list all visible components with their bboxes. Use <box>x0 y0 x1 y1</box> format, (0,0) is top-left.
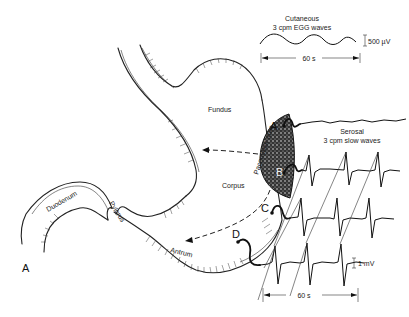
egg-scale-label: 500 µV <box>368 38 391 46</box>
serosal-title-1: Serosal <box>340 128 364 135</box>
electrode-b-label: B <box>276 166 283 178</box>
corpus-label: Corpus <box>222 182 245 190</box>
trace-a <box>300 119 406 124</box>
electrode-d: D <box>232 228 364 286</box>
cutaneous-egg-group: Cutaneous 3 cpm EGG waves 500 µV 60 s <box>260 15 391 63</box>
electrode-c-label: C <box>261 202 269 214</box>
serosal-time-label: 60 s <box>297 292 311 299</box>
propagation-arrow-lower <box>190 190 270 240</box>
stomach-emg-diagram: Cutaneous 3 cpm EGG waves 500 µV 60 s <box>0 0 409 317</box>
trace-b <box>302 152 400 187</box>
trace-c <box>290 198 394 238</box>
serosal-title-2: 3 cpm slow waves <box>324 137 381 145</box>
propagation-arrowhead-lower <box>185 237 193 243</box>
panel-label: A <box>22 262 30 274</box>
egg-scale-bar <box>363 35 367 46</box>
trace-d <box>260 243 364 286</box>
egg-waveform <box>260 34 356 44</box>
propagation-arrowhead-upper <box>202 147 209 153</box>
antrum-label: Antrum <box>170 246 194 258</box>
electrode-d-label: D <box>232 228 240 240</box>
cutaneous-title-2: 3 cpm EGG waves <box>273 24 332 32</box>
electrode-c: C <box>261 198 394 238</box>
electrode-a-label: A <box>270 120 278 132</box>
cutaneous-title-1: Cutaneous <box>285 15 319 22</box>
propagation-arrow-upper <box>206 150 258 154</box>
pylorus-label: Pylorus <box>107 200 126 224</box>
egg-time-label: 60 s <box>302 55 316 62</box>
serosal-scale-label: 1 mV <box>358 260 375 267</box>
fundus-label: Fundus <box>208 106 232 113</box>
